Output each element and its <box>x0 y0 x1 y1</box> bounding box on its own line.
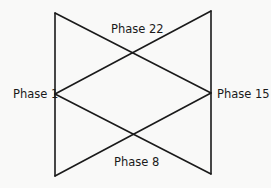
phase-15-label: Phase 15 <box>217 87 270 101</box>
phase-1-label: Phase 1 <box>13 87 58 101</box>
phase-22-label: Phase 22 <box>111 22 164 36</box>
phase-diagram: Phase 22 Phase 1 Phase 15 Phase 8 <box>0 0 271 188</box>
phase-8-label: Phase 8 <box>114 155 159 169</box>
